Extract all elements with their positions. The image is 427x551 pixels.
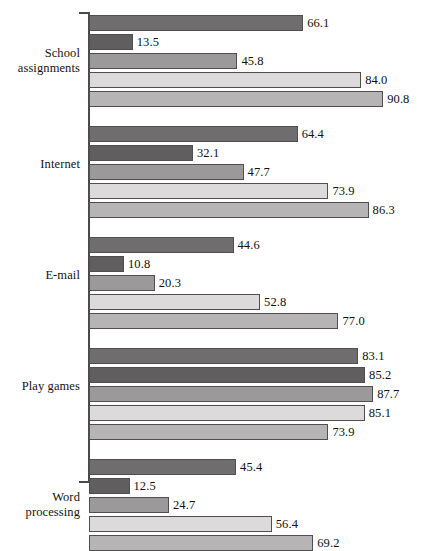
bar-g1-s3 xyxy=(89,183,328,199)
bar-value-g3-s4: 73.9 xyxy=(332,425,354,440)
bar-value-g3-s3: 85.1 xyxy=(369,406,391,421)
category-label-1: Internet xyxy=(40,157,80,172)
bar-g2-s2 xyxy=(89,275,155,291)
bar-g2-s3 xyxy=(89,294,260,310)
bar-value-g2-s4: 77.0 xyxy=(342,314,364,329)
bar-value-g4-s3: 56.4 xyxy=(276,517,298,532)
bar-g4-s0 xyxy=(89,459,236,475)
bar-value-g3-s1: 85.2 xyxy=(369,368,391,383)
bar-g3-s1 xyxy=(89,367,365,383)
bar-g2-s1 xyxy=(89,256,124,272)
bar-g4-s1 xyxy=(89,478,130,494)
bar-value-g0-s2: 45.8 xyxy=(241,54,263,69)
bar-value-g1-s0: 64.4 xyxy=(302,127,324,142)
bar-value-g0-s4: 90.8 xyxy=(387,92,409,107)
bar-value-g0-s1: 13.5 xyxy=(137,35,159,50)
bar-value-g1-s1: 32.1 xyxy=(197,146,219,161)
bar-value-g3-s2: 87.7 xyxy=(377,387,399,402)
bar-g2-s4 xyxy=(89,313,338,329)
bar-value-g1-s4: 86.3 xyxy=(373,203,395,218)
category-label-3: Play games xyxy=(22,379,80,394)
bar-g1-s1 xyxy=(89,145,193,161)
bar-g3-s4 xyxy=(89,424,328,440)
y-axis-tick-top xyxy=(79,12,88,14)
bar-g4-s4 xyxy=(89,535,313,551)
bar-value-g4-s4: 69.2 xyxy=(317,536,339,551)
bar-g2-s0 xyxy=(89,237,234,253)
bar-g0-s4 xyxy=(89,91,383,107)
bar-g0-s0 xyxy=(89,15,303,31)
bar-g4-s3 xyxy=(89,516,272,532)
bar-value-g0-s3: 84.0 xyxy=(365,73,387,88)
bar-value-g4-s0: 45.4 xyxy=(240,460,262,475)
bar-g3-s3 xyxy=(89,405,365,421)
bar-value-g2-s3: 52.8 xyxy=(264,295,286,310)
bar-value-g2-s2: 20.3 xyxy=(159,276,181,291)
bar-value-g1-s2: 47.7 xyxy=(248,165,270,180)
category-label-4: Word processing xyxy=(26,490,80,520)
bar-value-g1-s3: 73.9 xyxy=(332,184,354,199)
bar-g4-s2 xyxy=(89,497,169,513)
bar-value-g4-s1: 12.5 xyxy=(134,479,156,494)
category-label-0: School assignments xyxy=(18,46,80,76)
bar-value-g3-s0: 83.1 xyxy=(362,349,384,364)
bar-value-g2-s1: 10.8 xyxy=(128,257,150,272)
bar-g1-s0 xyxy=(89,126,298,142)
bar-value-g0-s0: 66.1 xyxy=(307,16,329,31)
bar-g3-s2 xyxy=(89,386,373,402)
bar-g0-s3 xyxy=(89,72,361,88)
category-label-2: E-mail xyxy=(45,268,80,283)
bar-g1-s4 xyxy=(89,202,369,218)
bar-g0-s2 xyxy=(89,53,237,69)
bar-g1-s2 xyxy=(89,164,244,180)
y-axis-tick-bottom xyxy=(79,481,88,483)
bar-value-g2-s0: 44.6 xyxy=(238,238,260,253)
bar-value-g4-s2: 24.7 xyxy=(173,498,195,513)
bar-g0-s1 xyxy=(89,34,133,50)
bar-g3-s0 xyxy=(89,348,358,364)
